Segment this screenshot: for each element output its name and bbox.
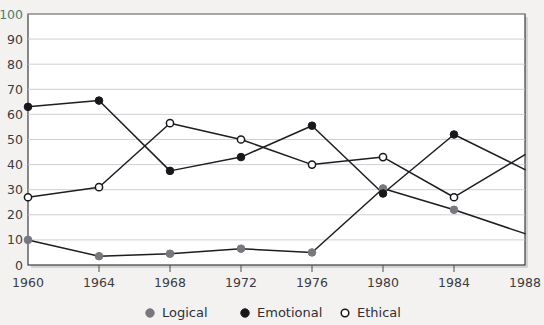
y-tick-label: 90 (7, 32, 23, 47)
legend-label-logical: Logical (162, 305, 208, 320)
data-point-emotional-1972 (237, 153, 245, 161)
legend-marker-logical (146, 309, 154, 317)
chart-canvas: 0102030405060708090100 19601964196819721… (0, 0, 544, 325)
legend-marker-emotional (241, 309, 249, 317)
data-point-emotional-1980 (379, 190, 387, 198)
y-tick-label: 50 (7, 132, 23, 147)
y-tick-label: 20 (7, 207, 23, 222)
y-tick-label: 100 (0, 7, 23, 22)
data-point-logical-1976 (308, 249, 316, 257)
legend-label-emotional: Emotional (257, 305, 322, 320)
x-tick-label: 1988 (509, 275, 541, 290)
y-tick-label: 30 (7, 182, 23, 197)
y-tick-label: 60 (7, 107, 23, 122)
data-point-emotional-1976 (308, 122, 316, 130)
x-tick-label: 1972 (225, 275, 257, 290)
data-point-emotional-1964 (95, 97, 103, 105)
y-tick-label: 70 (7, 82, 23, 97)
x-tick-label: 1960 (12, 275, 44, 290)
x-tick-label: 1968 (154, 275, 186, 290)
data-point-logical-1960 (24, 236, 32, 244)
x-tick-label: 1980 (367, 275, 399, 290)
y-tick-label: 0 (15, 258, 23, 273)
data-point-ethical-1968 (166, 120, 173, 127)
y-tick-label: 40 (7, 157, 23, 172)
data-point-logical-1964 (95, 252, 103, 260)
chart-legend: LogicalEmotionalEthical (146, 305, 401, 320)
data-point-ethical-1980 (379, 153, 386, 160)
y-tick-label: 10 (7, 232, 23, 247)
data-point-logical-1984 (450, 206, 458, 214)
data-point-ethical-1976 (308, 161, 315, 168)
data-point-emotional-1968 (166, 167, 174, 175)
data-point-logical-1968 (166, 250, 174, 258)
legend-marker-ethical (341, 309, 349, 317)
y-tick-label: 80 (7, 57, 23, 72)
data-point-ethical-1972 (237, 136, 244, 143)
line-chart: 0102030405060708090100 19601964196819721… (0, 0, 544, 325)
data-point-emotional-1960 (24, 103, 32, 111)
x-tick-label: 1984 (438, 275, 470, 290)
data-point-ethical-1960 (24, 194, 31, 201)
data-point-ethical-1964 (95, 184, 102, 191)
data-point-logical-1972 (237, 245, 245, 253)
data-point-ethical-1984 (450, 194, 457, 201)
legend-label-ethical: Ethical (357, 305, 401, 320)
data-point-emotional-1984 (450, 131, 458, 139)
x-tick-label: 1964 (83, 275, 115, 290)
x-tick-label: 1976 (296, 275, 328, 290)
